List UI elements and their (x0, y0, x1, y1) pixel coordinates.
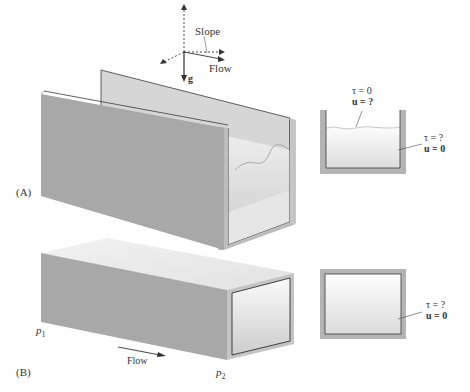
open-channel-cross-section: τ = 0 u = ? τ = ? u = 0 (320, 85, 445, 174)
panel-a-label: (A) (16, 186, 32, 199)
duct-cross-section: τ = ? u = 0 (320, 269, 447, 339)
wall-tau-a: τ = ? (424, 132, 444, 143)
gravity-arrow-icon (181, 75, 187, 82)
duct-section-fluid (325, 274, 401, 334)
flow-direction-line (184, 52, 221, 59)
axes-indicator: Slope Flow g (160, 4, 232, 84)
depth-axis (164, 52, 184, 62)
wall-u-a: u = 0 (424, 143, 445, 154)
surface-tau: τ = 0 (352, 85, 372, 96)
diagram-canvas: Slope Flow g (A) τ = 0 u = ? τ = ? u = 0… (0, 0, 470, 392)
right-arrow-icon (219, 49, 225, 55)
gravity-label: g (188, 73, 193, 84)
closed-duct (41, 238, 294, 360)
flow-arrow-b-line (118, 347, 160, 355)
back-wall-edge (290, 118, 296, 224)
open-channel-trough (41, 70, 296, 250)
up-arrow-icon (181, 4, 187, 10)
wall-u-b: u = 0 (426, 310, 447, 321)
flow-label-a: Flow (209, 62, 232, 74)
surface-u: u = ? (352, 96, 373, 107)
slope-leader (204, 36, 207, 53)
wall-tau-b: τ = ? (426, 299, 446, 310)
p1-label: p1 (35, 324, 46, 339)
flow-arrow-b-icon (157, 352, 166, 357)
surface-leader (356, 111, 362, 127)
section-fluid (326, 127, 400, 168)
flow-label-b: Flow (127, 355, 148, 366)
panel-b-label: (B) (16, 366, 31, 379)
p2-label: p2 (215, 366, 226, 381)
slope-label: Slope (195, 25, 220, 37)
